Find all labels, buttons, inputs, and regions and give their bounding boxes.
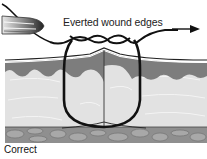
direction-arrow-icon: [172, 25, 200, 33]
caption-label: Correct: [4, 144, 37, 155]
suture-knot: [50, 30, 178, 44]
everted-edges-label: Everted wound edges: [63, 16, 163, 28]
needle-holder-icon: [2, 16, 44, 34]
